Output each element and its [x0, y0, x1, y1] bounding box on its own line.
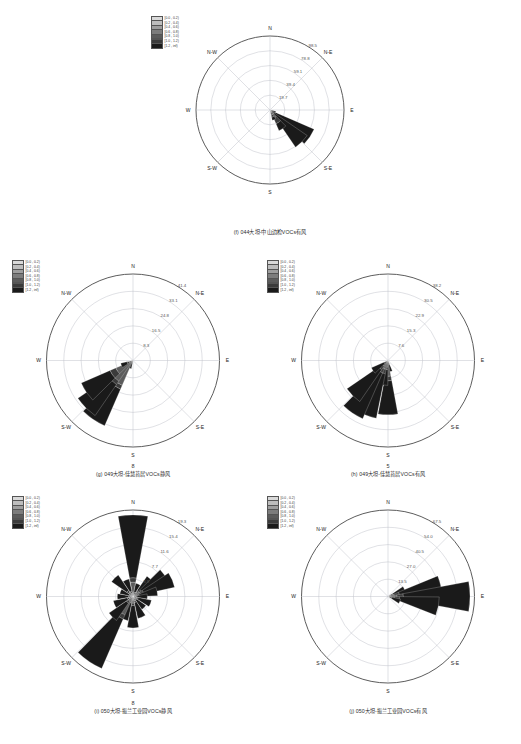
radial-tick-label: 15.3 [407, 328, 416, 333]
legend-item: [1.2 , inf) [267, 288, 295, 293]
radial-tick-label: 59.1 [294, 69, 303, 74]
direction-label-e: E [350, 107, 354, 113]
direction-label-e: E [226, 593, 230, 599]
panel-f: [0.0 , 0.2) [0.2 , 0.4) [0.4 , 0.6) [0.6… [180, 8, 360, 223]
direction-label-nw: N-W [316, 526, 326, 532]
radial-tick-label: 7.7 [152, 564, 159, 569]
radial-tick-label: 27.0 [407, 564, 416, 569]
radial-tick-label: 19.7 [279, 95, 288, 100]
direction-label-w: W [36, 593, 41, 599]
page-number: 8 [8, 463, 258, 469]
legend-item: [1.2 , inf) [12, 288, 40, 293]
direction-label-nw: N-W [207, 49, 217, 55]
legend-panel-f: [0.0 , 0.2) [0.2 , 0.4) [0.4 , 0.6) [0.6… [151, 16, 179, 48]
legend-label: [1.2 , inf) [281, 288, 294, 293]
direction-label-s: S [386, 452, 390, 458]
direction-label-n: N [268, 25, 272, 31]
radial-tick-label: 98.5 [309, 43, 318, 48]
rose-petal-segment [78, 614, 123, 668]
direction-label-ne: N-E [196, 526, 205, 532]
direction-label-nw: N-W [61, 290, 71, 296]
direction-label-n: N [386, 499, 390, 505]
radial-tick-label: 67.5 [433, 519, 442, 524]
panel-g: [0.0 , 0.2) [0.2 , 0.4) [0.4 , 0.6) [0.6… [8, 256, 258, 481]
direction-label-ne: N-E [324, 49, 333, 55]
direction-label-s: S [386, 688, 390, 694]
radial-tick-label: 3.9 [143, 579, 150, 584]
direction-label-n: N [386, 263, 390, 269]
direction-label-n: N [131, 499, 135, 505]
legend-label: [1.2 , inf) [281, 524, 294, 529]
radial-tick-label: 7.6 [398, 343, 405, 348]
legend-swatch [267, 523, 279, 528]
direction-label-n: N [131, 263, 135, 269]
panel-caption-f: (f) 044大坦-中山边检VOCs有风 [180, 228, 360, 235]
radial-tick-label: 39.4 [286, 82, 295, 87]
rose-petal-segment [399, 597, 440, 616]
direction-label-e: E [226, 357, 230, 363]
radial-tick-label: 15.4 [169, 534, 178, 539]
windrose-chart-f: 19.739.459.178.898.5NN-EES-ESS-WWN-W [180, 8, 360, 208]
legend-label: [1.2 , inf) [26, 288, 39, 293]
direction-label-se: S-E [451, 424, 460, 430]
legend-label: [1.2 , inf) [26, 524, 39, 529]
windrose-chart-i: 3.97.711.615.419.3NN-EES-ESS-WWN-W [8, 492, 258, 697]
page-number: 5 [263, 463, 513, 469]
direction-label-sw: S-W [316, 424, 326, 430]
panel-j: [0.0 , 0.2) [0.2 , 0.4) [0.4 , 0.6) [0.6… [263, 492, 513, 722]
windrose-chart-g: 8.316.524.833.141.4NN-EES-ESS-WWN-W [8, 256, 258, 461]
panel-caption-i: (i) 050大坦-振兰工业园VOCs静风 [8, 707, 258, 714]
direction-label-w: W [36, 357, 41, 363]
legend-panel-g: [0.0 , 0.2) [0.2 , 0.4) [0.4 , 0.6) [0.6… [12, 260, 40, 292]
radial-tick-label: 40.5 [415, 549, 424, 554]
legend-item: [1.2 , inf) [267, 524, 295, 529]
windrose-chart-j: 13.527.040.554.067.5NN-EES-ESS-WWN-W [263, 492, 513, 697]
legend-label: [1.2 , inf) [165, 44, 178, 49]
direction-label-nw: N-W [61, 526, 71, 532]
direction-label-ne: N-E [451, 290, 460, 296]
radial-tick-label: 54.0 [424, 534, 433, 539]
legend-item: [1.2 , inf) [12, 524, 40, 529]
page-number: 8 [8, 700, 258, 706]
direction-label-e: E [481, 357, 485, 363]
panel-caption-j: (j) 050大坦-振兰工业园VOCs有风 [263, 707, 513, 714]
legend-item: [1.2 , inf) [151, 44, 179, 49]
radial-tick-label: 16.5 [152, 328, 161, 333]
direction-label-w: W [291, 593, 296, 599]
panel-caption-g: (g) 049大坦-佳慧苔居VOCs静风 [8, 470, 258, 477]
direction-label-se: S-E [196, 660, 205, 666]
panel-caption-h: (h) 049大坦-佳慧苔居VOCs有风 [263, 470, 513, 477]
legend-panel-i: [0.0 , 0.2) [0.2 , 0.4) [0.4 , 0.6) [0.6… [12, 496, 40, 528]
radial-tick-label: 41.4 [178, 283, 187, 288]
direction-label-ne: N-E [196, 290, 205, 296]
direction-label-e: E [481, 593, 485, 599]
legend-swatch [12, 523, 24, 528]
radial-tick-label: 8.3 [143, 343, 150, 348]
rose-petal-segment [130, 578, 137, 583]
radial-tick-label: 11.6 [160, 549, 169, 554]
legend-swatch [12, 287, 24, 292]
direction-label-ne: N-E [451, 526, 460, 532]
legend-swatch [267, 287, 279, 292]
radial-tick-label: 22.9 [415, 313, 424, 318]
direction-label-se: S-E [324, 165, 333, 171]
direction-label-nw: N-W [316, 290, 326, 296]
radial-tick-label: 38.2 [433, 283, 442, 288]
panel-i: [0.0 , 0.2) [0.2 , 0.4) [0.4 , 0.6) [0.6… [8, 492, 258, 722]
radial-tick-label: 33.1 [169, 298, 178, 303]
direction-label-s: S [131, 688, 135, 694]
legend-swatch [151, 43, 163, 48]
direction-label-w: W [186, 107, 191, 113]
panel-h: [0.0 , 0.2) [0.2 , 0.4) [0.4 , 0.6) [0.6… [263, 256, 513, 481]
rose-petal-segment [131, 603, 134, 605]
radial-tick-label: 13.5 [398, 579, 407, 584]
direction-label-sw: S-W [61, 660, 71, 666]
direction-label-s: S [131, 452, 135, 458]
legend-panel-j: [0.0 , 0.2) [0.2 , 0.4) [0.4 , 0.6) [0.6… [267, 496, 295, 528]
direction-label-sw: S-W [61, 424, 71, 430]
radial-tick-label: 19.3 [178, 519, 187, 524]
radial-tick-label: 78.8 [301, 56, 310, 61]
radial-tick-label: 24.8 [160, 313, 169, 318]
direction-label-sw: S-W [207, 165, 217, 171]
windrose-chart-h: 7.615.322.930.538.2NN-EES-ESS-WWN-W [263, 256, 513, 461]
